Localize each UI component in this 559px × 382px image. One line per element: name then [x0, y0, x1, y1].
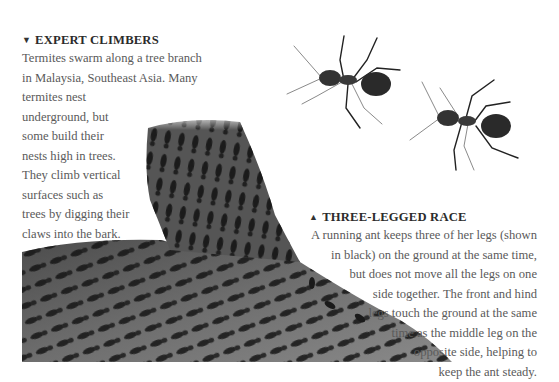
- three-legged-race-caption: ▲THREE-LEGGED RACE A running ant keeps t…: [311, 209, 537, 382]
- caption-line: keep the ant steady.: [311, 363, 537, 382]
- caption-line: surfaces such as: [22, 186, 202, 206]
- caption-line: in black) on the ground at the same time…: [311, 246, 537, 266]
- caption-line: trees by digging their: [22, 205, 202, 225]
- caption-line: A running ant keeps three of her legs (s…: [311, 226, 537, 246]
- caption-line: termites nest: [22, 88, 202, 108]
- caption-line: claws into the bark.: [22, 225, 202, 245]
- caption-line: some build their: [22, 127, 202, 147]
- ant-icon: [287, 36, 518, 170]
- caption-line: They climb vertical: [22, 166, 202, 186]
- caption-line: but does not move all the legs on one: [311, 265, 537, 285]
- caption-line: time as the middle leg on the: [311, 324, 537, 344]
- caption-line: opposite side, helping to: [311, 343, 537, 363]
- caption-heading: ▼EXPERT CLIMBERS: [22, 32, 202, 49]
- caption-heading: ▲THREE-LEGGED RACE: [309, 209, 535, 226]
- running-ants-illustration: [270, 20, 559, 180]
- caption-line: in Malaysia, Southeast Asia. Many: [22, 69, 202, 89]
- caption-line: legs touch the ground at the same: [311, 304, 537, 324]
- expert-climbers-caption: ▼EXPERT CLIMBERS Termites swarm along a …: [22, 32, 202, 244]
- caption-line: underground, but: [22, 108, 202, 128]
- triangle-down-icon: ▼: [22, 35, 31, 45]
- triangle-up-icon: ▲: [309, 212, 318, 222]
- caption-line: nests high in trees.: [22, 147, 202, 167]
- caption-line: Termites swarm along a tree branch: [22, 49, 202, 69]
- caption-line: side together. The front and hind: [311, 285, 537, 305]
